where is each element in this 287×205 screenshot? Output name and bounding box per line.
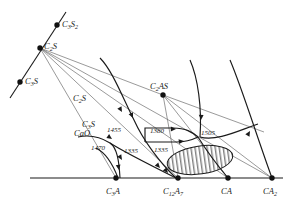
point-c3s [17, 79, 22, 84]
tie-lines-group [10, 12, 272, 178]
field-label-c2s-field: C2S [73, 93, 87, 104]
arrow-g-icon [171, 127, 176, 132]
arrow-j-icon [245, 130, 252, 137]
point-c2s [37, 45, 42, 50]
label-c2as: C2AS [150, 81, 169, 92]
arrow-i-icon [199, 115, 204, 120]
temperature-t1335a: 1335 [124, 147, 139, 155]
field-labels-group: C2SC3SCaO [73, 93, 96, 138]
point-labels-group: C3S2C2SC3SC2ASC3AC12A7CACA2 [25, 19, 277, 197]
point-ca2 [269, 175, 274, 180]
arrow-k-icon [106, 134, 113, 141]
tie-c2s-c2as [40, 48, 163, 95]
arrow-d-icon [116, 164, 122, 170]
label-c3a: C3A [106, 186, 121, 197]
temperature-t1335b: 1335 [154, 146, 169, 154]
point-ca [225, 175, 230, 180]
label-ca: CA [221, 186, 233, 196]
tie-c2s-c3a [40, 48, 116, 178]
label-ca2: CA2 [263, 186, 277, 197]
tie-c2s-c12a7 [40, 48, 178, 178]
diagram-canvas: C3S2C2SC3SC2ASC3AC12A7CACA2 C2SC3SCaO 14… [0, 0, 287, 205]
point-c12a7 [175, 175, 180, 180]
arrow-a-icon [117, 106, 124, 113]
temperature-t1505: 1505 [201, 129, 216, 137]
tie-c2s-ca2 [40, 48, 272, 178]
field-label-cao-field: CaO [74, 128, 90, 138]
temperature-t1455: 1455 [107, 126, 122, 134]
label-c2s: C2S [44, 41, 58, 52]
curve-right-upper [190, 60, 201, 137]
label-c3s2: C3S2 [62, 19, 78, 30]
label-c3s: C3S [25, 76, 39, 87]
point-c3a [113, 175, 118, 180]
label-c12a7: C12A7 [163, 186, 184, 197]
phase-diagram-figure: C3S2C2SC3SC2ASC3AC12A7CACA2 C2SC3SCaO 14… [0, 0, 287, 205]
tie-c2as-right [163, 95, 264, 132]
curve-far-right [230, 60, 272, 178]
point-c2as [160, 92, 165, 97]
curve-cao-left [78, 136, 120, 178]
temperature-t1380: 1380 [150, 127, 165, 135]
point-c3s2 [54, 22, 59, 27]
temperature-t1470: 1470 [91, 144, 106, 152]
